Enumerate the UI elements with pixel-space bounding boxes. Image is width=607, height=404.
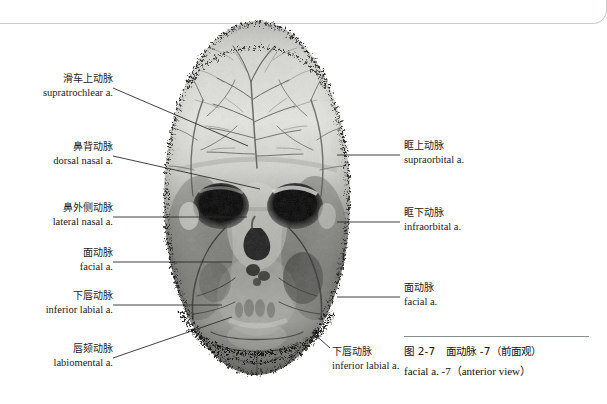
callout-lateral-nasal-en: lateral nasal a. [8,215,113,229]
callout-labiomental-cn: 唇颏动脉 [8,342,113,355]
callout-inferior-labial-bottom-en: inferior labial a. [332,359,399,373]
callout-supraorbital-cn: 眶上动脉 [404,139,464,152]
callout-lateral-nasal: 鼻外侧动脉 lateral nasal a. [8,201,113,229]
callout-infraorbital-cn: 眶下动脉 [404,206,461,219]
callout-infraorbital-en: infraorbital a. [404,220,461,234]
caption-cn: 图 2-7 面动脉 -7（前面观） [404,343,594,358]
callout-inferior-labial-bottom: 下唇动脉 inferior labial a. [332,345,399,373]
caption-rule [404,336,589,337]
caption-en: facial a. -7（anterior view） [404,362,594,378]
callout-supratrochlear-cn: 滑车上动脉 [8,72,113,85]
callout-supratrochlear-en: supratrochlear a. [8,86,113,100]
specimen-head-body [163,20,351,377]
callout-inferior-labial-left-en: inferior labial a. [8,303,113,317]
callout-inferior-labial-left-cn: 下唇动脉 [8,289,113,302]
callout-supraorbital-en: supraorbital a. [404,153,464,167]
page-canvas: 滑车上动脉 supratrochlear a. 鼻背动脉 dorsal nasa… [0,0,607,404]
callout-labiomental-en: labiomental a. [8,356,113,370]
callout-facial-right-cn: 面动脉 [404,281,437,294]
callout-infraorbital: 眶下动脉 infraorbital a. [404,206,461,234]
callout-inferior-labial-left: 下唇动脉 inferior labial a. [8,289,113,317]
callout-facial-right-en: facial a. [404,295,437,309]
callout-lateral-nasal-cn: 鼻外侧动脉 [8,201,113,214]
specimen-figure [163,20,351,377]
callout-facial-left-en: facial a. [8,260,113,274]
callout-supraorbital: 眶上动脉 supraorbital a. [404,139,464,167]
callout-labiomental: 唇颏动脉 labiomental a. [8,342,113,370]
figure-caption: 图 2-7 面动脉 -7（前面观） facial a. -7（anterior … [404,336,594,378]
callout-supratrochlear: 滑车上动脉 supratrochlear a. [8,72,113,100]
callout-dorsal-nasal-cn: 鼻背动脉 [8,140,113,153]
callout-facial-left-cn: 面动脉 [8,246,113,259]
callout-dorsal-nasal-en: dorsal nasal a. [8,154,113,168]
callout-facial-left: 面动脉 facial a. [8,246,113,274]
callout-dorsal-nasal: 鼻背动脉 dorsal nasal a. [8,140,113,168]
callout-inferior-labial-bottom-cn: 下唇动脉 [332,345,399,358]
callout-facial-right: 面动脉 facial a. [404,281,437,309]
